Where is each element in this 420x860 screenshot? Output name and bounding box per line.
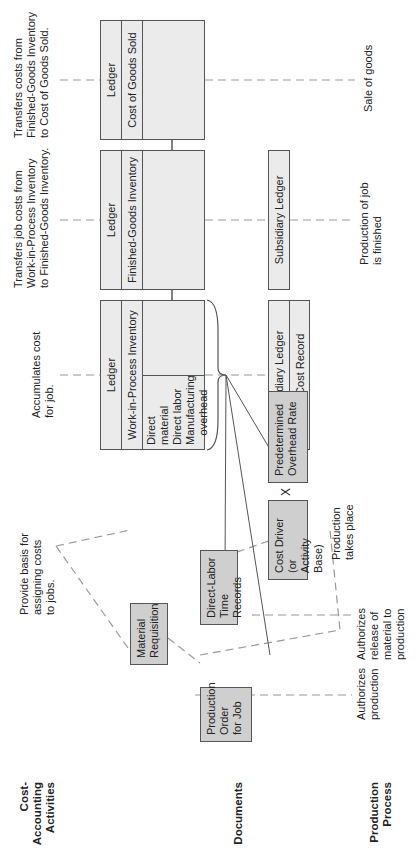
ledger-finished-goods-inventory: Ledger Finished-Goods Inventory — [100, 150, 205, 290]
process-production-finished: Production of job is finished — [358, 182, 384, 265]
ledger-account: Finished-Goods Inventory — [122, 151, 143, 289]
process-line: is finished — [371, 182, 384, 265]
ledger-work-in-process-inventory: Ledger Work-in-Process Inventory Direct … — [100, 300, 205, 450]
annotation-line: to Cost of Goods Sold. — [38, 12, 51, 138]
annotation-line: to Finished-Goods Inventory. — [38, 148, 51, 288]
ledger-title: Ledger — [101, 21, 122, 139]
process-line: production — [394, 608, 407, 660]
annotation-line: assigning costs — [31, 533, 44, 615]
annotation-fg: Transfers job costs from Work-in-Process… — [12, 148, 51, 288]
annotation-wip: Accumulates cost for job. — [30, 332, 56, 418]
entry: overhead — [197, 380, 210, 445]
ledger-account: Work-in-Process Inventory — [122, 301, 143, 449]
multiply-sign: X — [280, 488, 293, 496]
label-line: Cost- — [18, 782, 31, 852]
wip-entries: Direct material Direct labor Manufacturi… — [143, 375, 205, 449]
doc-production-order: Production Order for Job — [200, 687, 252, 742]
row-label-documents: Documents — [232, 782, 245, 852]
process-line: production — [368, 668, 381, 720]
annotation-line: Work-in-Process Inventory — [25, 148, 38, 288]
doc-line: Requisition — [148, 610, 161, 658]
process-line: release of — [368, 608, 381, 660]
doc-direct-labor-time-records: Direct-Labor Time Records — [200, 550, 238, 625]
process-authorizes-release: Authorizes release of material to produc… — [355, 608, 407, 660]
process-line: takes place — [343, 504, 356, 560]
annotation-line: Finished-Goods Inventory — [25, 12, 38, 138]
process-line: Authorizes — [355, 668, 368, 720]
job-order-costing-diagram: Cost- Accounting Activities Documents Pr… — [0, 0, 420, 860]
doc-cost-driver: Cost Driver (or Activity Base) — [268, 500, 308, 580]
label-line: Activities — [44, 782, 57, 852]
annotation-basis: Provide basis for assigning costs to job… — [18, 533, 57, 615]
doc-line: for Job — [231, 694, 244, 735]
row-label-cost-accounting: Cost- Accounting Activities — [18, 782, 57, 852]
entry: Manufacturing — [184, 380, 197, 445]
label-line: Accounting — [31, 782, 44, 852]
subsidiary-ledger-fg: Subsidiary Ledger — [268, 150, 290, 290]
doc-line: Material — [135, 610, 148, 658]
entry: Direct material — [145, 380, 171, 445]
label-line: Production — [368, 782, 381, 852]
annotation-line: for job. — [43, 332, 56, 418]
process-line: Authorizes — [355, 608, 368, 660]
doc-line: Cost Driver (or — [273, 507, 299, 573]
process-authorizes-production: Authorizes production — [355, 668, 381, 720]
annotation-line: Transfers costs from — [12, 12, 25, 138]
subsidiary-title: Subsidiary Ledger — [269, 151, 289, 289]
doc-line: Direct-Labor — [205, 557, 218, 618]
doc-line: Order — [218, 694, 231, 735]
process-production-takes-place: Production takes place — [330, 504, 356, 560]
doc-predetermined-overhead-rate: Predetermined Overhead Rate — [268, 391, 308, 483]
process-line: Production of job — [358, 182, 371, 265]
process-line: material to — [381, 608, 394, 660]
ledger-account: Cost of Goods Sold — [122, 21, 143, 139]
ledger-cost-of-goods-sold: Ledger Cost of Goods Sold — [100, 20, 205, 140]
annotation-line: to jobs. — [44, 533, 57, 615]
doc-line: Predetermined — [273, 398, 286, 476]
process-line: Production — [330, 504, 343, 560]
doc-line: Activity Base) — [299, 507, 325, 573]
annotation-line: Transfers job costs from — [12, 148, 25, 288]
label-line: Process — [381, 782, 394, 852]
annotation-cogs: Transfers costs from Finished-Goods Inve… — [12, 12, 51, 138]
doc-material-requisition: Material Requisition — [130, 603, 168, 665]
doc-line: Time Records — [218, 557, 244, 618]
entry: Direct labor — [171, 380, 184, 445]
doc-line: Overhead Rate — [286, 398, 299, 476]
annotation-line: Accumulates cost — [30, 332, 43, 418]
process-sale-of-goods: Sale of goods — [362, 45, 375, 112]
annotation-line: Provide basis for — [18, 533, 31, 615]
ledger-title: Ledger — [101, 301, 122, 449]
doc-line: Production — [205, 694, 218, 735]
ledger-title: Ledger — [101, 151, 122, 289]
row-label-production-process: Production Process — [368, 782, 394, 852]
